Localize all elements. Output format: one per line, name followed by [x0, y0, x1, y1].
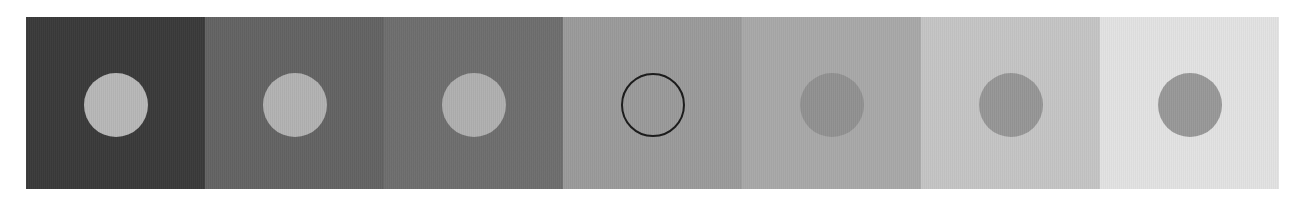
disc-4-outlined: [621, 73, 685, 137]
panel-7: [1100, 17, 1279, 189]
disc-6: [979, 73, 1043, 137]
disc-2: [263, 73, 327, 137]
disc-3: [442, 73, 506, 137]
panel-5: [742, 17, 921, 189]
panel-3: [384, 17, 563, 189]
disc-5: [800, 73, 864, 137]
panel-6: [921, 17, 1100, 189]
contrast-strip: [26, 17, 1279, 189]
panel-2: [205, 17, 384, 189]
figure-root: [0, 0, 1299, 211]
panel-4: [563, 17, 742, 189]
panel-1: [26, 17, 205, 189]
disc-7: [1158, 73, 1222, 137]
disc-1: [84, 73, 148, 137]
